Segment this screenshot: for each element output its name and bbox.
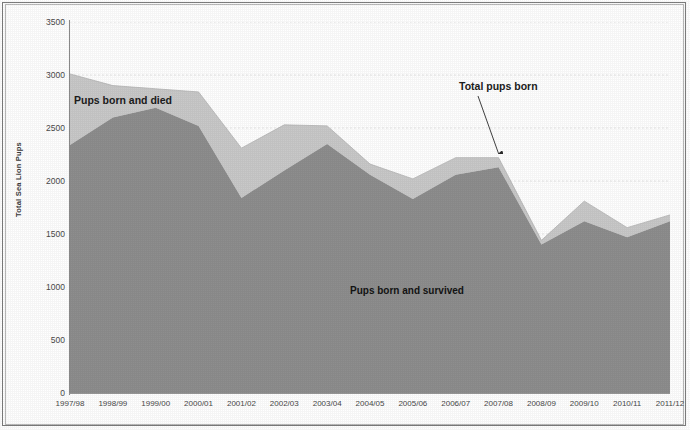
y-axis-tick-labels: 3500300025002000150010005000 [20,0,65,430]
x-axis-tick-label: 1999/00 [141,399,170,408]
y-axis-tick-label: 1500 [25,229,65,239]
y-axis-tick-label: 0 [25,388,65,398]
x-axis-tick-label: 2001/02 [227,399,256,408]
area-label-born-and-died: Pups born and died [74,94,172,106]
x-axis-tick-label: 2003/04 [313,399,342,408]
y-axis-tick-label: 1000 [25,282,65,292]
x-axis-tick-label: 2000/01 [184,399,213,408]
area-label-born-and-survived: Pups born and survived [350,285,464,296]
plot-area [70,22,670,393]
x-axis-tick-labels: 1997/981998/991999/002000/012001/022002/… [0,399,690,419]
y-axis-tick-label: 3000 [25,70,65,80]
x-axis-tick-label: 2007/08 [484,399,513,408]
x-axis-tick-label: 2008/09 [527,399,556,408]
y-axis-tick-label: 500 [25,335,65,345]
x-axis-tick-label: 2002/03 [270,399,299,408]
y-axis-tick-label: 2000 [25,176,65,186]
stacked-area-plot [70,22,670,393]
chart-figure: Total Sea Lion Pups 35003000250020001500… [0,0,690,430]
x-axis-tick-label: 2009/10 [570,399,599,408]
x-axis-tick-label: 2011/12 [656,399,684,408]
x-axis-tick-label: 1997/98 [56,399,85,408]
x-axis-tick-label: 2004/05 [356,399,385,408]
y-axis-tick-label: 3500 [25,17,65,27]
x-axis-tick-label: 2005/06 [398,399,427,408]
x-axis-line [69,393,670,394]
x-axis-tick-label: 1998/99 [98,399,127,408]
area-series-pups-born-and-survived [70,108,670,393]
y-axis-tick-label: 2500 [25,123,65,133]
annotation-label-total-pups-born: Total pups born [459,80,538,92]
x-axis-tick-label: 2006/07 [441,399,470,408]
x-axis-tick-label: 2010/11 [613,399,641,408]
